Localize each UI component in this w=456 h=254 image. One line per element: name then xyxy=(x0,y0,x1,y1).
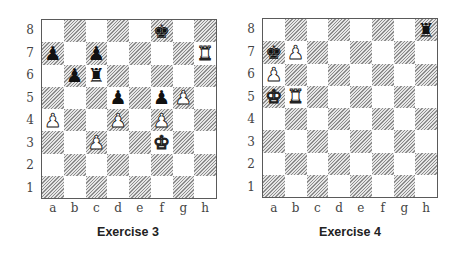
diagram-caption: Exercise 3 xyxy=(78,225,178,239)
diagram-caption: Exercise 4 xyxy=(300,225,400,239)
white-pawn-icon: ♟ xyxy=(44,111,61,130)
square-c8 xyxy=(307,19,329,41)
square-h5 xyxy=(415,86,437,108)
square-h2 xyxy=(194,154,216,176)
square-e2 xyxy=(350,153,372,175)
square-a8 xyxy=(263,19,285,41)
file-label: h xyxy=(194,201,216,217)
square-b1 xyxy=(64,176,86,198)
white-pawn-icon: ♟ xyxy=(175,88,192,107)
square-h7: ♜ xyxy=(194,42,216,64)
square-b5: ♜ xyxy=(285,86,307,108)
file-label: c xyxy=(307,201,329,217)
white-king-icon: ♚ xyxy=(153,133,170,152)
square-d3 xyxy=(107,131,129,153)
square-c3: ♟ xyxy=(86,131,108,153)
square-f6 xyxy=(372,64,394,86)
rank-label: 8 xyxy=(23,19,37,42)
square-b5 xyxy=(64,87,86,109)
file-labels: a b c d e f g h xyxy=(263,201,437,217)
black-pawn-icon: ♟ xyxy=(44,44,61,63)
rank-label: 8 xyxy=(244,18,258,41)
square-f3 xyxy=(372,130,394,152)
square-a4 xyxy=(263,108,285,130)
square-b8 xyxy=(64,20,86,42)
square-g3 xyxy=(394,130,416,152)
square-f1 xyxy=(372,175,394,197)
rank-label: 5 xyxy=(244,86,258,109)
square-e4 xyxy=(350,108,372,130)
white-pawn-icon: ♟ xyxy=(110,111,127,130)
square-a6 xyxy=(42,65,64,87)
square-g2 xyxy=(394,153,416,175)
rank-label: 4 xyxy=(244,108,258,131)
square-a2 xyxy=(42,154,64,176)
square-c3 xyxy=(307,130,329,152)
rank-label: 3 xyxy=(23,132,37,155)
square-d5 xyxy=(328,86,350,108)
square-h5 xyxy=(194,87,216,109)
square-c4 xyxy=(307,108,329,130)
square-g6 xyxy=(394,64,416,86)
square-g4 xyxy=(173,109,195,131)
file-labels: a b c d e f g h xyxy=(42,201,216,217)
square-h7 xyxy=(415,41,437,63)
white-pawn-icon: ♟ xyxy=(265,65,282,84)
square-a6: ♟ xyxy=(263,64,285,86)
square-c6: ♜ xyxy=(86,65,108,87)
square-d4 xyxy=(328,108,350,130)
black-king-icon: ♚ xyxy=(153,22,170,41)
square-b3 xyxy=(64,131,86,153)
square-g1 xyxy=(394,175,416,197)
square-c7 xyxy=(307,41,329,63)
file-label: g xyxy=(173,201,195,217)
rank-label: 3 xyxy=(244,131,258,154)
file-label: d xyxy=(328,201,350,217)
square-h3 xyxy=(194,131,216,153)
rank-label: 2 xyxy=(23,154,37,177)
square-f8: ♚ xyxy=(151,20,173,42)
square-c2 xyxy=(307,153,329,175)
square-f5 xyxy=(372,86,394,108)
square-d6 xyxy=(328,64,350,86)
file-label: h xyxy=(415,201,437,217)
square-d8 xyxy=(328,19,350,41)
square-d8 xyxy=(107,20,129,42)
square-h6 xyxy=(194,65,216,87)
file-label: b xyxy=(64,201,86,217)
square-a5 xyxy=(42,87,64,109)
square-h6 xyxy=(415,64,437,86)
square-g1 xyxy=(173,176,195,198)
square-h4 xyxy=(415,108,437,130)
square-e2 xyxy=(129,154,151,176)
square-f6 xyxy=(151,65,173,87)
square-h3 xyxy=(415,130,437,152)
square-a1 xyxy=(42,176,64,198)
square-b1 xyxy=(285,175,307,197)
square-d1 xyxy=(107,176,129,198)
square-g7 xyxy=(173,42,195,64)
file-label: f xyxy=(372,201,394,217)
rank-label: 6 xyxy=(244,63,258,86)
square-a1 xyxy=(263,175,285,197)
square-c4 xyxy=(86,109,108,131)
rank-labels: 8 7 6 5 4 3 2 1 xyxy=(244,18,258,198)
square-e1 xyxy=(129,176,151,198)
rank-label: 1 xyxy=(23,177,37,200)
square-f4 xyxy=(372,108,394,130)
square-d7 xyxy=(107,42,129,64)
square-a4: ♟ xyxy=(42,109,64,131)
square-h2 xyxy=(415,153,437,175)
square-c8 xyxy=(86,20,108,42)
square-c5 xyxy=(86,87,108,109)
file-label: a xyxy=(42,201,64,217)
square-a8 xyxy=(42,20,64,42)
rank-label: 5 xyxy=(23,87,37,110)
square-h1 xyxy=(415,175,437,197)
square-c2 xyxy=(86,154,108,176)
square-b2 xyxy=(64,154,86,176)
file-label: g xyxy=(394,201,416,217)
black-pawn-icon: ♟ xyxy=(88,44,105,63)
rank-label: 7 xyxy=(244,41,258,64)
black-king-icon: ♚ xyxy=(265,43,282,62)
